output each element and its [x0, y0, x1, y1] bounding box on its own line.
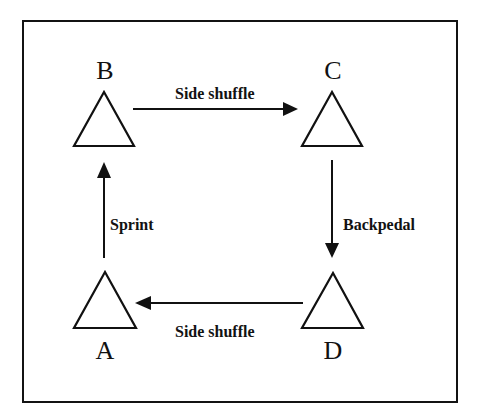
edge-label-c-to-d: Backpedal — [343, 216, 415, 234]
node-label-a: A — [85, 338, 125, 364]
node-label-b: B — [85, 58, 125, 84]
triangle-node-c — [302, 92, 362, 146]
node-label-c: C — [313, 58, 353, 84]
node-label-d: D — [313, 338, 353, 364]
arrow-a-to-b — [97, 162, 111, 258]
arrow-d-to-a — [135, 296, 303, 310]
triangle-node-a — [74, 272, 136, 328]
arrow-b-to-c — [133, 102, 298, 116]
diagram-vector-layer — [0, 0, 478, 416]
figure-canvas: B C A D Side shuffle Backpedal Side shuf… — [0, 0, 478, 416]
triangle-node-d — [302, 273, 363, 328]
edge-label-a-to-b: Sprint — [110, 216, 154, 234]
edge-label-b-to-c: Side shuffle — [175, 85, 255, 103]
edge-label-d-to-a: Side shuffle — [175, 323, 255, 341]
triangle-node-b — [74, 92, 134, 146]
arrow-c-to-d — [325, 160, 339, 258]
